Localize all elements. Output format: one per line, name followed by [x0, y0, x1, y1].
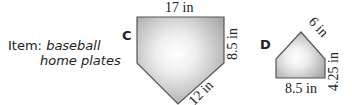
figure-d-bottom-dimension: 8.5 in — [285, 81, 317, 96]
figure-d: 6 in 4.25 in 8.5 in — [276, 14, 341, 96]
figure-d-diagonal-dimension: 6 in — [306, 14, 331, 40]
figure-c-side-dimension: 8.5 in — [225, 28, 240, 60]
figure-d-side-dimension: 4.25 in — [326, 52, 341, 91]
pentagon-d — [276, 32, 325, 78]
figure-c: 17 in 8.5 in 12 in — [137, 0, 240, 105]
home-plates-diagram: 17 in 8.5 in 12 in 6 in 4.25 in 8.5 in — [0, 0, 352, 105]
figure-c-top-dimension: 17 in — [165, 0, 193, 15]
